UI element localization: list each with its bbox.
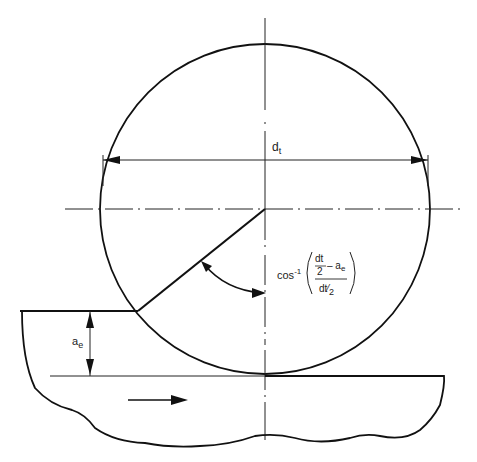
svg-text:2: 2 — [317, 266, 323, 277]
svg-text:dt⁄2: dt⁄2 — [319, 283, 334, 297]
engagement-radius — [138, 209, 265, 311]
arrow-left-icon — [103, 156, 120, 164]
angle-formula: cos-1 dt 2 – ae dt⁄2 — [277, 252, 355, 297]
feed-direction-arrow-icon — [171, 395, 188, 405]
diagram-canvas: dt cos-1 dt 2 – ae dt⁄2 ae — [0, 0, 477, 462]
arc-arrow-end-icon — [252, 288, 266, 298]
depth-arrow-up-icon — [86, 312, 94, 328]
diameter-label: dt — [272, 140, 282, 156]
svg-text:dt: dt — [315, 253, 324, 264]
svg-text:cos-1: cos-1 — [277, 267, 302, 281]
depth-arrow-down-icon — [86, 359, 94, 375]
workpiece-outline — [20, 311, 444, 447]
depth-label: ae — [72, 335, 83, 350]
svg-text:– ae: – ae — [327, 260, 346, 273]
arrow-right-icon — [411, 156, 428, 164]
